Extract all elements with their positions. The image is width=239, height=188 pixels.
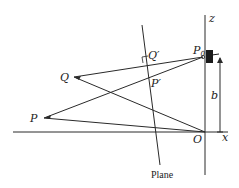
projection-p-label: P′ <box>150 77 161 90</box>
projection-q-label: Q′ <box>148 49 160 62</box>
height-label: b <box>211 89 218 102</box>
projection-diagram: z x O P0 Q P Q′ P′ b Plane <box>0 0 239 188</box>
plane-label: Plane <box>151 169 174 180</box>
z-axis-label: z <box>208 12 215 25</box>
ray-o-q <box>74 77 205 132</box>
ray-o-p <box>44 118 205 132</box>
diagram-canvas: z x O P0 Q P Q′ P′ b Plane <box>0 0 239 188</box>
ray-p0-p <box>44 57 203 118</box>
camera-icon <box>206 50 213 63</box>
image-plane-line <box>142 25 160 165</box>
point-p-label: P <box>29 112 38 125</box>
x-axis-label: x <box>222 131 229 144</box>
ray-p0-q <box>74 57 203 77</box>
camera-point-label: P0 <box>192 44 205 58</box>
origin-label: O <box>193 133 202 146</box>
camera-lens-icon <box>212 54 219 55</box>
point-q-label: Q <box>60 71 69 84</box>
